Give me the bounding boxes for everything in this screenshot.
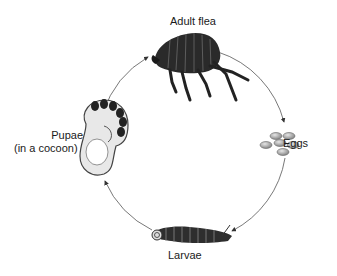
- pupa-cocoon-icon: [80, 99, 128, 175]
- flea-life-cycle-diagram: Adult flea Eggs Larvae Pupae (in a cocoo…: [0, 0, 337, 276]
- flea-icon: [152, 33, 248, 100]
- stage-label-pupae: Pupae: [49, 129, 83, 142]
- stage-label-adult-flea: Adult flea: [170, 15, 216, 28]
- larva-icon: [152, 225, 232, 243]
- stage-label-pupae-cocoon: (in a cocoon): [14, 142, 78, 155]
- arrow-adult-to-eggs: [218, 52, 284, 122]
- stage-label-eggs: Eggs: [283, 137, 308, 150]
- stage-label-larvae: Larvae: [168, 249, 202, 262]
- arrow-eggs-to-larvae: [232, 158, 285, 231]
- arrow-larvae-to-pupae: [105, 181, 152, 230]
